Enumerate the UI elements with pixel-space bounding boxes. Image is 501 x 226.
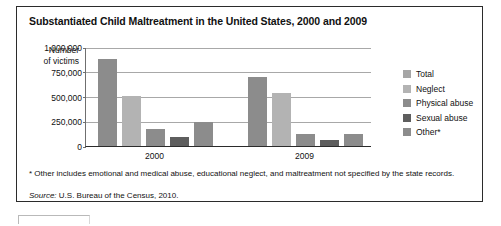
legend-label: Neglect <box>416 84 445 94</box>
x-axis-tick-label: 2009 <box>295 151 314 161</box>
plot-area: 0250,000500,000750,0001,000,000 20002009 <box>85 48 371 147</box>
y-axis-tick-label: 750,000 <box>51 68 82 78</box>
bar <box>272 93 291 146</box>
y-axis-tick-label: 0 <box>77 142 82 152</box>
y-axis-tick-label: 500,000 <box>51 93 82 103</box>
source-text: U.S. Bureau of the Census, 2010. <box>59 191 179 200</box>
y-axis-tick-label: 250,000 <box>51 117 82 127</box>
y-axis-tick-mark <box>83 122 86 123</box>
bar <box>296 134 315 146</box>
page-edge-artifact <box>18 215 90 224</box>
bar <box>170 137 189 146</box>
y-axis-tick-mark <box>83 72 86 73</box>
gridline <box>86 72 371 73</box>
bar <box>248 77 267 146</box>
legend-item: Other* <box>403 125 473 140</box>
gridline <box>86 48 371 49</box>
bar <box>344 134 363 146</box>
x-axis-tick-label: 2000 <box>145 151 164 161</box>
y-axis-tick-mark <box>83 147 86 148</box>
y-axis-tick-label: 1,000,000 <box>44 43 82 53</box>
legend-swatch <box>403 99 411 107</box>
plot-inner: 0250,000500,000750,0001,000,000 <box>85 48 371 147</box>
legend-swatch <box>403 85 411 93</box>
chart-title: Substantiated Child Maltreatment in the … <box>29 15 367 27</box>
legend-label: Physical abuse <box>416 98 473 108</box>
source-note: Source: U.S. Bureau of the Census, 2010. <box>29 191 178 200</box>
footnote: * Other includes emotional and medical a… <box>29 169 454 178</box>
legend: TotalNeglectPhysical abuseSexual abuseOt… <box>403 67 473 140</box>
y-axis-title-line-2: of victims <box>25 56 79 67</box>
source-label: Source: <box>29 191 57 200</box>
figure-frame: Substantiated Child Maltreatment in the … <box>16 6 483 202</box>
bar <box>194 122 213 146</box>
legend-item: Total <box>403 67 473 82</box>
y-axis-tick-mark <box>83 48 86 49</box>
bar <box>320 140 339 146</box>
y-axis-tick-mark <box>83 97 86 98</box>
legend-swatch <box>403 114 411 122</box>
legend-item: Sexual abuse <box>403 111 473 126</box>
bar <box>98 59 117 146</box>
legend-label: Total <box>416 69 434 79</box>
legend-label: Other* <box>416 127 441 137</box>
bar <box>146 129 165 146</box>
legend-label: Sexual abuse <box>416 113 468 123</box>
legend-item: Neglect <box>403 82 473 97</box>
legend-swatch <box>403 128 411 136</box>
bar <box>122 96 141 146</box>
legend-item: Physical abuse <box>403 96 473 111</box>
legend-swatch <box>403 70 411 78</box>
